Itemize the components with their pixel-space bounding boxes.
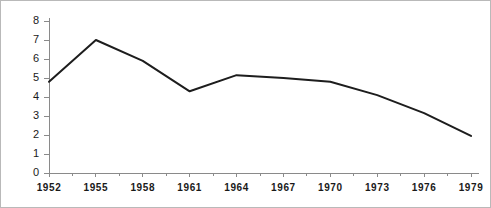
x-axis: 1952195519581961196419671970197319761979 [37,173,484,193]
data-series-line [49,40,471,136]
y-tick-label: 7 [33,33,39,45]
x-tick-label: 1964 [224,182,249,193]
y-tick-label: 2 [33,128,39,140]
y-tick-label: 4 [33,90,39,102]
x-tick-label: 1961 [177,182,202,193]
x-tick-label: 1952 [37,182,62,193]
y-tick-label: 3 [33,109,39,121]
chart-figure: 012345678 195219551958196119641967197019… [0,0,491,208]
y-tick-label: 0 [33,166,39,178]
y-tick-label: 1 [33,147,39,159]
x-tick-label: 1976 [412,182,437,193]
x-tick-label: 1970 [318,182,343,193]
line-chart: 012345678 195219551958196119641967197019… [1,1,491,208]
x-tick-label: 1955 [84,182,109,193]
x-tick-label: 1979 [459,182,484,193]
y-tick-label: 6 [33,52,39,64]
x-tick-label: 1958 [130,182,155,193]
y-tick-label: 5 [33,71,39,83]
x-tick-label: 1967 [271,182,296,193]
y-tick-label: 8 [33,14,39,26]
y-axis: 012345678 [33,14,49,178]
x-tick-label: 1973 [365,182,390,193]
